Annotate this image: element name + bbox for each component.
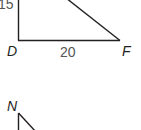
side-n-diagonal [19,113,37,130]
label-leg-length: 15 [0,0,14,12]
triangle-n [19,113,37,130]
vertex-label-d: D [7,43,17,59]
vertex-label-n: N [7,98,18,114]
triangle-def [18,0,120,41]
side-hypotenuse [66,0,120,41]
geometry-figure: 15 D 20 F N [0,0,141,130]
vertex-label-f: F [122,43,132,59]
label-base-length: 20 [60,44,76,60]
